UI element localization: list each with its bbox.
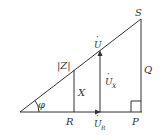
label-ur-dot: · [96, 111, 99, 121]
label-r: R [65, 116, 74, 127]
ux-arrow-head [98, 50, 103, 56]
right-angle-marker [131, 101, 141, 112]
label-ux-sub: X [111, 82, 117, 89]
label-phi: φ [38, 99, 45, 110]
label-z: |Z| [57, 60, 71, 72]
label-p: P [131, 116, 139, 127]
label-q: Q [144, 64, 152, 75]
triangle-diagram: S Q P R X |Z| φ U · U · X U · R [0, 0, 162, 135]
label-u-dot: · [96, 32, 99, 42]
label-ux-dot: · [107, 69, 110, 79]
label-x: X [77, 87, 86, 98]
label-ur-sub: R [100, 124, 106, 131]
label-s: S [135, 7, 142, 18]
